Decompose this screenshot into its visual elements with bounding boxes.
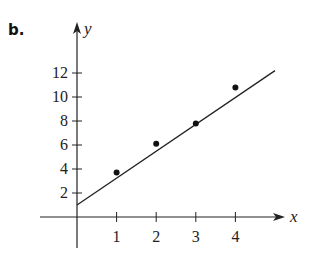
- panel-label: b.: [8, 21, 24, 39]
- y-tick-label: 2: [60, 184, 68, 201]
- y-tick-label: 10: [52, 88, 68, 105]
- data-point: [193, 120, 199, 126]
- y-tick-label: 6: [60, 136, 68, 153]
- data-point: [153, 141, 159, 147]
- axis-ticks: 123424681012: [52, 64, 239, 245]
- data-point: [232, 84, 238, 90]
- x-tick-label: 2: [152, 228, 160, 245]
- y-tick-label: 8: [60, 112, 68, 129]
- y-tick-label: 12: [52, 64, 68, 81]
- data-point: [114, 170, 120, 176]
- y-axis-label: y: [82, 19, 92, 38]
- x-axis-label: x: [289, 207, 298, 226]
- axes: [40, 22, 285, 248]
- fitted-line: [77, 71, 275, 205]
- x-tick-label: 3: [192, 228, 200, 245]
- regression-line: [77, 71, 275, 205]
- x-tick-label: 1: [113, 228, 121, 245]
- y-tick-label: 4: [60, 160, 68, 177]
- data-points: [114, 84, 239, 175]
- x-tick-label: 4: [231, 228, 239, 245]
- chart-figure: b. 123424681012 x y: [0, 0, 314, 258]
